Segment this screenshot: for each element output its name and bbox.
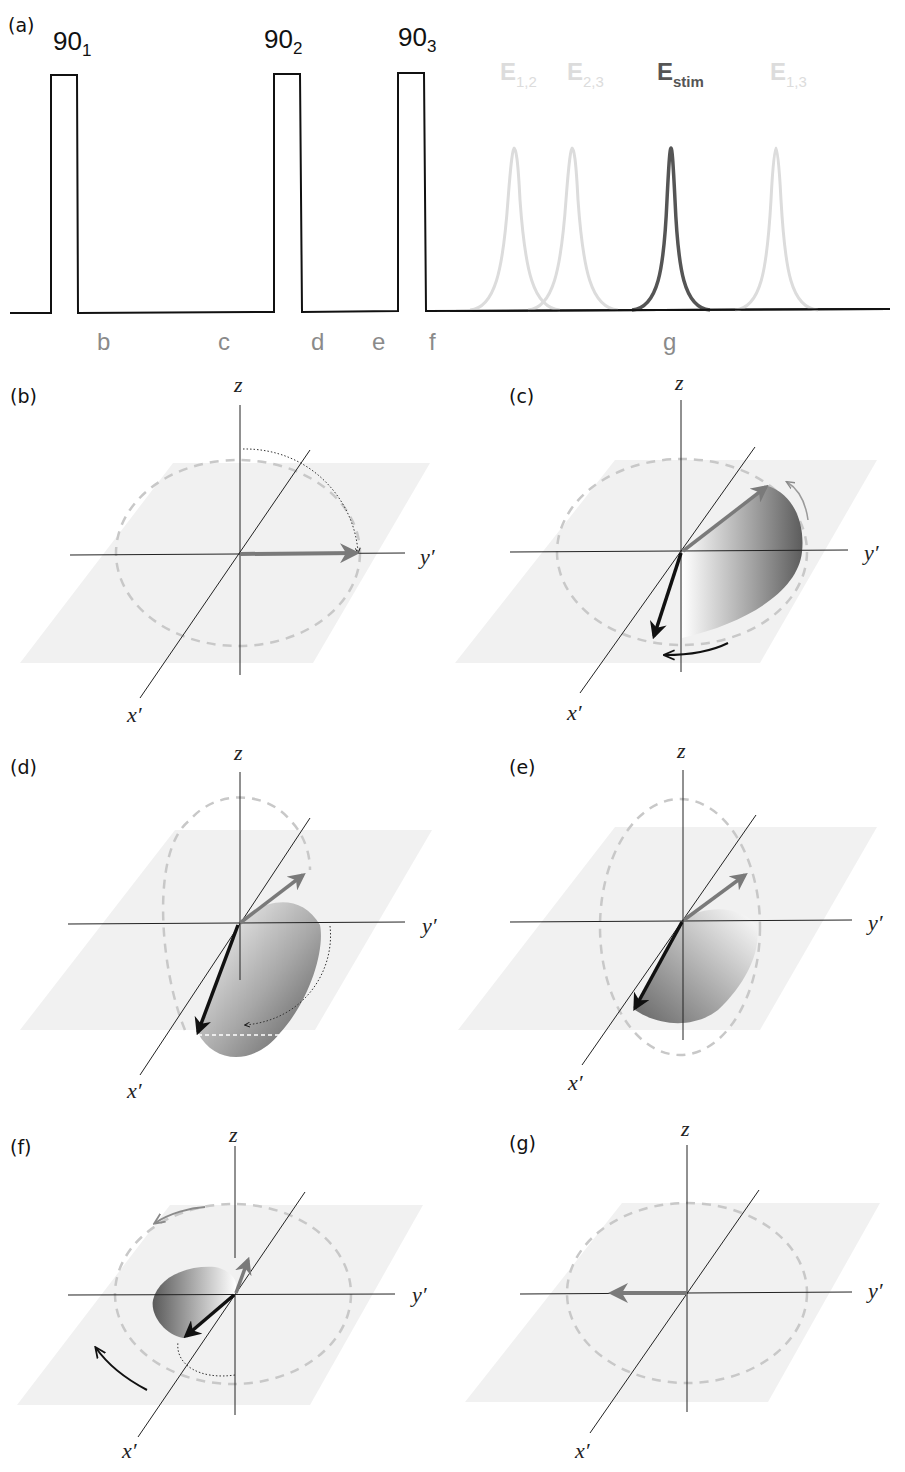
magnetization-vector (240, 553, 356, 554)
panel-e-vector-diagram (450, 730, 905, 1110)
z-axis-label: z (677, 738, 686, 764)
y-axis-label: y′ (422, 913, 437, 939)
pulse-label-90-3: 903 (398, 22, 436, 57)
panel-g-vector-diagram (450, 1110, 905, 1472)
y-axis-label: y′ (864, 540, 879, 566)
echo-label-estim: Estim (657, 58, 704, 90)
z-axis-label: z (681, 1116, 690, 1142)
x-axis-label: x′ (127, 702, 142, 728)
echo-estim-peak (632, 148, 710, 310)
echo-e13-peak (735, 148, 818, 310)
time-point-e: e (372, 328, 385, 356)
transverse-plane (455, 460, 877, 663)
echo-label-e13: E1,3 (770, 58, 807, 90)
panel-f-vector-diagram (0, 1110, 450, 1472)
y-axis-label: y′ (412, 1282, 427, 1308)
panel-a: (a) 901 902 903 E1,2 E2,3 Estim E1,3 b c… (0, 0, 905, 360)
x-axis-label: x′ (567, 700, 582, 726)
panel-b: (b) z y′ x′ (0, 360, 450, 730)
x-axis-label: x′ (127, 1078, 142, 1104)
time-point-d: d (311, 328, 324, 356)
time-point-c: c (218, 328, 230, 356)
rf-pulse-trace (10, 73, 890, 313)
y-axis-label: y′ (420, 544, 435, 570)
z-axis-label: z (234, 740, 243, 766)
panel-c-vector-diagram (450, 360, 905, 730)
panel-b-vector-diagram (0, 360, 450, 730)
y-axis-label: y′ (868, 1278, 883, 1304)
transverse-plane (465, 1203, 880, 1402)
z-axis-label: z (234, 372, 243, 398)
time-point-g: g (663, 328, 676, 356)
panel-c: (c) z y′ x′ (450, 360, 905, 730)
x-axis-label: x′ (568, 1070, 583, 1096)
y-axis-label: y′ (868, 910, 883, 936)
echo-label-e12: E1,2 (500, 58, 537, 90)
pulse-label-90-2: 902 (264, 24, 302, 59)
x-axis-label: x′ (122, 1438, 137, 1464)
panel-d-vector-diagram (0, 730, 450, 1110)
time-point-b: b (97, 328, 110, 356)
z-axis-label: z (229, 1122, 238, 1148)
x-axis-label: x′ (575, 1438, 590, 1464)
z-axis-label: z (675, 370, 684, 396)
transverse-plane (20, 463, 430, 663)
time-point-f: f (429, 328, 436, 356)
panel-g: (g) z y′ x′ (450, 1110, 905, 1472)
echo-e23-peak (528, 148, 618, 310)
panel-d: (d) z y′ x′ (0, 730, 450, 1110)
panel-e: (e) z y′ x′ (450, 730, 905, 1110)
pulse-sequence-trace (0, 0, 905, 360)
panel-f: (f) z y′ x′ (0, 1110, 450, 1472)
echo-e12-peak (470, 148, 560, 310)
pulse-label-90-1: 901 (53, 26, 91, 61)
echo-label-e23: E2,3 (567, 58, 604, 90)
